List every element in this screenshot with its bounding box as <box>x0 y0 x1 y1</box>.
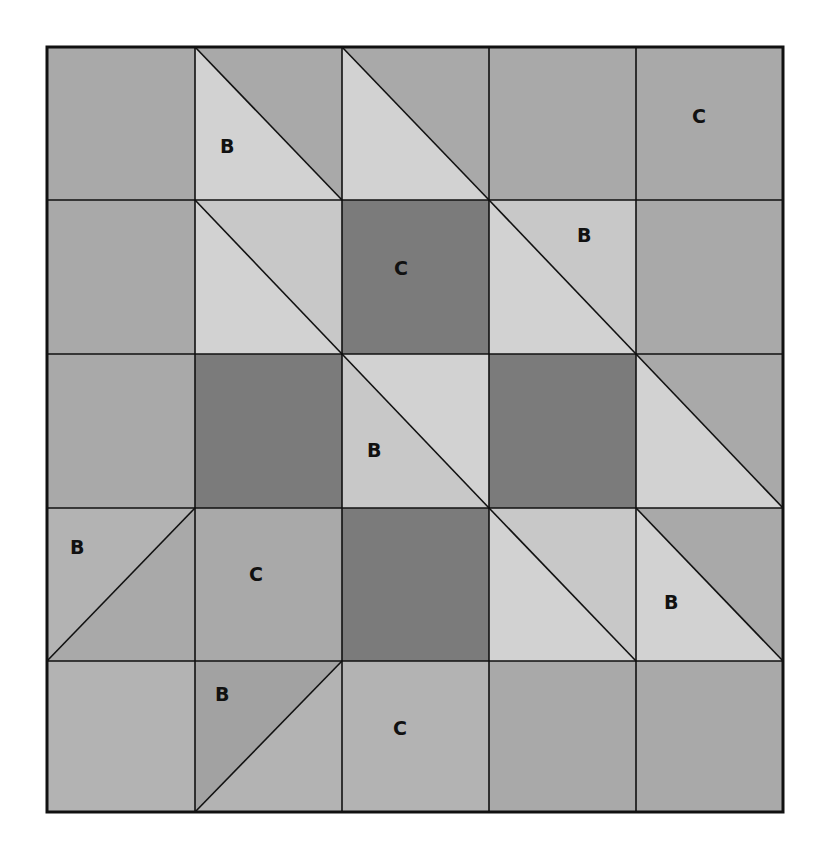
square-r2c0 <box>47 354 195 508</box>
square-r1c0 <box>47 200 195 354</box>
square-r2c1-dark <box>195 354 342 508</box>
square-r0c0 <box>47 47 195 200</box>
square-r4c2 <box>342 661 489 812</box>
square-r0c3 <box>489 47 636 200</box>
square-r3c1 <box>195 508 342 661</box>
label-r0c4: C <box>692 105 706 127</box>
label-r4c2: C <box>393 717 407 739</box>
square-r4c3 <box>489 661 636 812</box>
quilt-block-diagram: B C C B B B C B B C <box>0 0 829 842</box>
square-r0c4 <box>636 47 783 200</box>
label-r1c2: C <box>394 257 408 279</box>
square-r4c4 <box>636 661 783 812</box>
label-r0c1: B <box>220 135 234 157</box>
label-r4c1: B <box>215 683 229 705</box>
label-r1c3: B <box>577 224 591 246</box>
square-r1c2-dark <box>342 200 489 354</box>
label-r3c0: B <box>70 536 84 558</box>
square-r1c4 <box>636 200 783 354</box>
square-r3c2-dark <box>342 508 489 661</box>
square-r2c3-dark <box>489 354 636 508</box>
label-r3c4: B <box>664 591 678 613</box>
square-r4c0 <box>47 661 195 812</box>
label-r3c1: C <box>249 563 263 585</box>
label-r2c2: B <box>367 439 381 461</box>
